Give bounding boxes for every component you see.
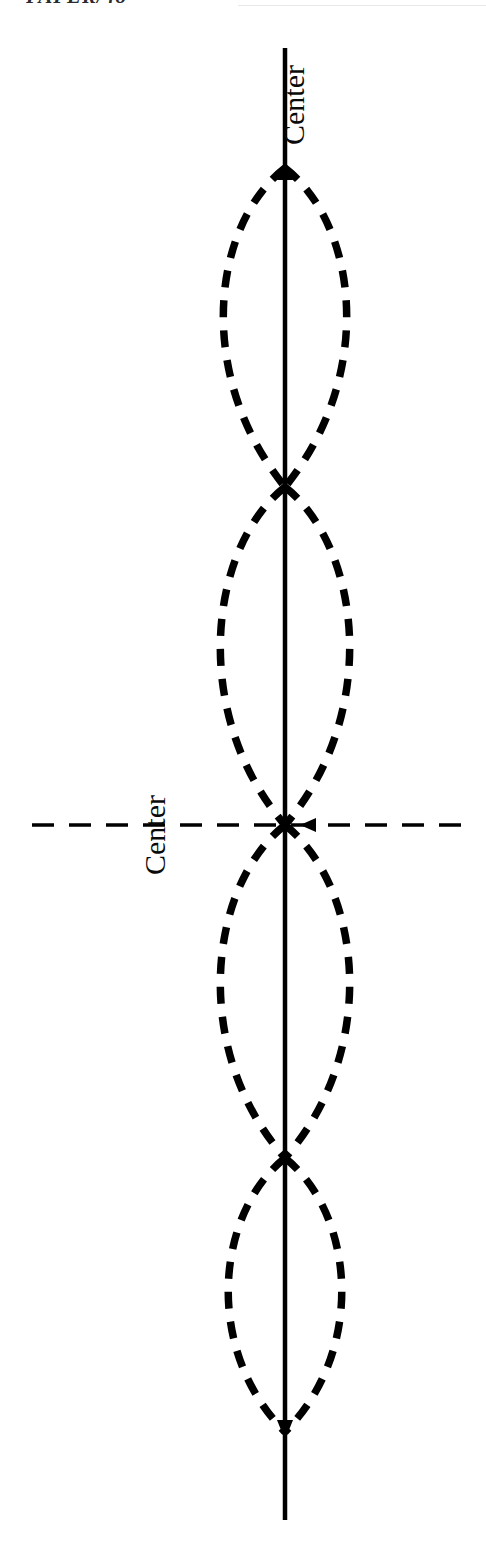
vertical-center-axis	[277, 48, 293, 1520]
lobe-3-right-curve	[285, 825, 350, 1158]
lobe-2-left-curve	[220, 487, 285, 825]
horizontal-center-label: Center	[140, 795, 170, 875]
lobe-4-right-curve	[285, 1158, 342, 1432]
horizontal-center-axis	[32, 818, 470, 832]
lobe-1-right-curve	[285, 168, 347, 487]
lobe-4-left-curve	[228, 1158, 285, 1432]
figure-canvas: PAPER/48 Ce	[0, 0, 486, 1562]
horizontal-axis-arrowhead-icon	[300, 818, 316, 832]
vertical-axis-bottom-arrowhead-icon	[277, 1420, 293, 1440]
lobe-1-left-curve	[223, 168, 285, 487]
lobe-2-right-curve	[285, 487, 350, 825]
lobe-3-left-curve	[220, 825, 285, 1158]
standing-wave-mode-svg	[0, 0, 486, 1562]
vertical-center-label: Center	[279, 65, 309, 145]
